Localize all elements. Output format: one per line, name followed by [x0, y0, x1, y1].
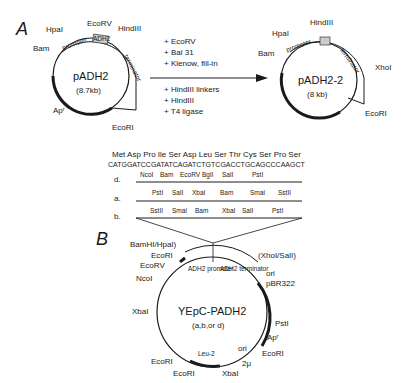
plasmid-padh2: promoter ADH2 terminator pADH2 (8.7kb) E… — [33, 19, 143, 132]
svg-text:ori: ori — [238, 344, 247, 353]
svg-text:SalI: SalI — [172, 189, 183, 196]
linker-label: b. — [114, 212, 121, 221]
svg-text:Apʳ: Apʳ — [267, 333, 279, 342]
dna-sequence: CATGGATCCGATATCAGATCTGTCGACCTGCAGCCCAAGC… — [108, 161, 306, 168]
procedure-steps: + EcoRV + Bal 31 + Klenow, fill-in + Hin… — [150, 37, 268, 116]
svg-text:ADH2 terminator: ADH2 terminator — [220, 265, 269, 272]
plasmid-name: YEpC-PADH2 — [178, 305, 246, 317]
svg-text:ori: ori — [266, 269, 275, 278]
svg-text:NcoI: NcoI — [136, 274, 152, 283]
site-hpai: HpaI — [46, 25, 63, 34]
linker-maps: d. NcoI Bam EcoRV BglI SalI PstI a. PstI… — [114, 171, 302, 243]
step: + Bal 31 — [164, 48, 194, 57]
svg-text:NcoI: NcoI — [140, 171, 154, 178]
site-apr: Apʳ — [53, 106, 65, 115]
svg-text:PstI: PstI — [152, 189, 163, 196]
step: + Klenow, fill-in — [164, 59, 218, 68]
panel-b-label: B — [96, 229, 108, 249]
svg-text:Bam: Bam — [220, 189, 233, 196]
svg-text:EcoRI: EcoRI — [173, 369, 195, 378]
site-bam: Bam — [33, 44, 50, 53]
svg-text:SalI: SalI — [242, 207, 253, 214]
svg-text:PstI: PstI — [272, 207, 283, 214]
svg-text:XbaI: XbaI — [192, 189, 206, 196]
svg-text:EcoRI: EcoRI — [151, 357, 173, 366]
site-bam: Bam — [258, 49, 275, 58]
svg-text:EcoRI: EcoRI — [151, 251, 173, 260]
plasmid-yepc-padh2: ADH2 promoter ADH2 terminator YEpC-PADH2… — [130, 240, 296, 378]
svg-text:SalI: SalI — [222, 171, 233, 178]
site-ecori: EcoRI — [365, 109, 387, 118]
svg-text:Leu-2: Leu-2 — [198, 350, 215, 357]
segment-promoter: promoter — [61, 35, 89, 52]
svg-text:SmaI: SmaI — [172, 207, 187, 214]
svg-text:Bam: Bam — [160, 171, 173, 178]
svg-text:BamHI/HpaI): BamHI/HpaI) — [130, 240, 177, 249]
plasmid-name: pADH2 — [73, 70, 108, 82]
plasmid-size: (8.7kb) — [76, 86, 101, 95]
svg-text:EcoRV: EcoRV — [180, 171, 201, 178]
svg-text:pBR322: pBR322 — [266, 279, 295, 288]
svg-text:2μ: 2μ — [242, 359, 251, 368]
plasmid-variants: (a,b,or d) — [192, 321, 225, 330]
plasmid-size: (8 kb) — [307, 90, 328, 99]
site-ecorv: EcoRV — [87, 19, 112, 28]
step: + EcoRV — [164, 37, 196, 46]
svg-text:PstI: PstI — [252, 171, 263, 178]
segment-promoter: promoter — [285, 37, 313, 54]
svg-text:Bam: Bam — [195, 207, 208, 214]
segment-adh2: ADH2 — [93, 35, 111, 42]
svg-text:SmaI: SmaI — [250, 189, 265, 196]
site-ecori: EcoRI — [112, 123, 134, 132]
site-hpai: HpaI — [272, 29, 289, 38]
step: + HindIII linkers — [164, 85, 219, 94]
segment-terminator: terminator — [339, 47, 362, 76]
plasmid-padh2-2: promoter terminator pADH2-2 (8 kb) HindI… — [258, 18, 391, 118]
svg-text:XbaI: XbaI — [222, 207, 236, 214]
svg-text:SstII: SstII — [278, 189, 291, 196]
svg-text:XbaI: XbaI — [222, 369, 238, 378]
panel-a-label: A — [15, 19, 28, 39]
svg-text:PstI: PstI — [275, 319, 289, 328]
svg-text:EcoRI: EcoRI — [262, 349, 284, 358]
linker-label: d. — [114, 175, 121, 184]
svg-text:BglI: BglI — [202, 171, 213, 179]
step: + HindIII — [164, 96, 194, 105]
site-xhoi: XhoI — [375, 63, 391, 72]
svg-text:SstII: SstII — [150, 207, 163, 214]
step: + T4 ligase — [164, 107, 204, 116]
plasmid-name: pADH2-2 — [298, 74, 343, 86]
site-hindiii: HindIII — [118, 24, 141, 33]
linker-label: a. — [114, 194, 121, 203]
arrow-icon — [256, 74, 268, 82]
plasmid-construction-diagram: A promoter ADH2 terminator pADH2 (8.7kb)… — [0, 0, 409, 383]
svg-text:(XhoI/SalI): (XhoI/SalI) — [258, 251, 296, 260]
amino-acid-sequence: Met Asp Pro Ile Ser Asp Leu Ser Thr Cys … — [112, 150, 301, 159]
site-hindiii: HindIII — [310, 18, 333, 27]
segment-terminator: terminator — [123, 53, 143, 83]
svg-text:XbaI: XbaI — [132, 307, 148, 316]
svg-text:EcoRV: EcoRV — [140, 261, 165, 270]
